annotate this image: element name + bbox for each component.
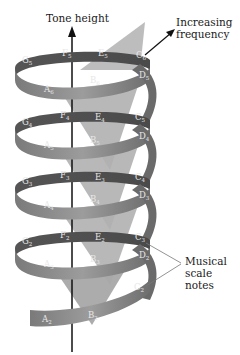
note-label: E5 bbox=[98, 48, 108, 59]
note-label: F3 bbox=[60, 170, 70, 181]
ribbon-front-turn bbox=[15, 248, 150, 280]
note-label: C2 bbox=[134, 282, 144, 293]
axis-arrowhead-icon bbox=[68, 26, 76, 37]
callout-label-line2: scale bbox=[185, 267, 212, 279]
note-label: A6 bbox=[43, 84, 54, 95]
tone-height-axis bbox=[68, 26, 76, 352]
note-label: C4 bbox=[135, 172, 146, 183]
note-label: F4 bbox=[60, 110, 70, 121]
frequency-label-line1: Increasing bbox=[176, 16, 233, 28]
increasing-frequency-arrow bbox=[145, 29, 175, 55]
note-label: A3 bbox=[43, 259, 54, 270]
note-label: C6 bbox=[136, 50, 147, 61]
note-label: C5 bbox=[135, 112, 146, 123]
pitch-helix-diagram: Tone height Increasing frequency Musical… bbox=[0, 0, 240, 355]
note-label: A4 bbox=[43, 200, 54, 211]
note-label: C3 bbox=[135, 232, 146, 243]
note-label: F2 bbox=[60, 230, 69, 241]
note-label: B6 bbox=[90, 75, 100, 86]
note-label: F5 bbox=[62, 48, 72, 59]
callout-label-line3: notes bbox=[185, 279, 214, 291]
ribbon-back-turn bbox=[15, 232, 150, 258]
note-label: G5 bbox=[22, 55, 33, 66]
note-label: A5 bbox=[43, 140, 54, 151]
axis-label: Tone height bbox=[46, 12, 110, 24]
frequency-label-line2: frequency bbox=[176, 28, 229, 40]
callout-label-line1: Musical bbox=[185, 255, 227, 267]
